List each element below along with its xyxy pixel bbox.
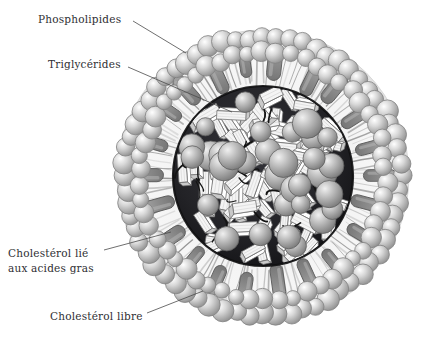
diagram-canvas: Phospholipides Triglycérides Cholestérol… [0,0,447,344]
label-triglycerides: Triglycérides [48,57,121,71]
hydrophobic-core [173,85,353,269]
label-cholesterol-libre: Cholestérol libre [50,309,143,323]
label-phospholipides: Phospholipides [38,12,121,26]
label-cholesterol-lie-line1: Cholestérol lié [8,247,88,259]
label-cholesterol-lie-aux-acides-gras: Cholestérol lié aux acides gras [8,246,94,276]
lipoprotein-diagram [0,0,447,344]
label-cholesterol-lie-line2: aux acides gras [8,262,94,274]
